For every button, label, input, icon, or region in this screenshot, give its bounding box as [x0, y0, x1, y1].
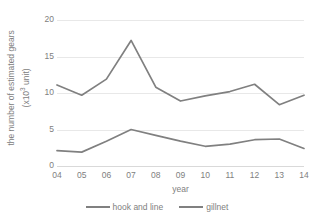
y-axis-title-line1: the number of estimated gears [6, 30, 17, 145]
line-chart: the number of estimated gears (x103 unit… [0, 0, 314, 224]
legend-item-gillnet[interactable]: gillnet [179, 202, 228, 212]
x-tick-label-05: 05 [70, 170, 94, 180]
y-axis-title-line2: (x103 unit) [17, 30, 32, 145]
x-tick-label-08: 08 [144, 170, 168, 180]
legend-label: hook and line [113, 202, 164, 212]
x-tick-label-12: 12 [243, 170, 267, 180]
y-axis-title: the number of estimated gears (x103 unit… [0, 0, 38, 176]
y-tick-label-20: 20 [34, 15, 54, 24]
x-axis-title: year [57, 184, 304, 194]
x-tick-label-09: 09 [169, 170, 193, 180]
legend-item-hook-and-line[interactable]: hook and line [86, 202, 164, 212]
y-axis-tick-labels: 05101520 [34, 0, 54, 186]
x-tick-label-04: 04 [45, 170, 69, 180]
series-container [57, 20, 304, 166]
legend-swatch-icon [179, 206, 203, 208]
plot-area [57, 20, 304, 166]
x-tick-label-07: 07 [119, 170, 143, 180]
y-axis-title-unit-prefix: (x10 [21, 91, 31, 108]
x-tick-label-13: 13 [267, 170, 291, 180]
gridline-0 [57, 166, 304, 167]
y-axis-title-unit-suffix: unit) [21, 68, 31, 87]
x-tick-label-14: 14 [292, 170, 314, 180]
y-axis-title-unit-exponent: 3 [19, 87, 26, 91]
series-line-gillnet [57, 40, 304, 104]
legend-swatch-icon [86, 206, 110, 208]
y-tick-label-5: 5 [34, 125, 54, 134]
y-tick-label-10: 10 [34, 88, 54, 97]
x-tick-label-06: 06 [94, 170, 118, 180]
y-tick-label-15: 15 [34, 52, 54, 61]
series-line-hook-and-line [57, 130, 304, 153]
x-axis-tick-labels: 0405060708091011121314 [57, 170, 304, 184]
chart-legend: hook and linegillnet [0, 202, 314, 212]
legend-label: gillnet [206, 202, 228, 212]
x-tick-label-11: 11 [218, 170, 242, 180]
x-tick-label-10: 10 [193, 170, 217, 180]
y-tick-label-0: 0 [34, 161, 54, 170]
